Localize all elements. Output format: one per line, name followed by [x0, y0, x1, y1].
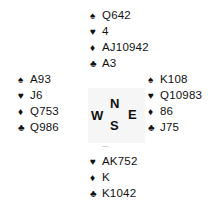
north-hand: ♠Q642 ♥4 ♦AJ10942 ♣A3	[90, 7, 149, 71]
compass-west: W	[91, 108, 103, 123]
spade-icon: ♠	[148, 72, 160, 88]
club-icon: ♣	[90, 186, 102, 202]
south-clubs: ♣K1042	[90, 185, 138, 201]
east-spades: ♠K108	[148, 71, 202, 87]
south-spades: –	[90, 137, 138, 153]
east-hand: ♠K108 ♥Q10983 ♦86 ♣J75	[148, 71, 202, 135]
west-spades: ♠A93	[18, 71, 59, 87]
south-hearts: ♥AK752	[90, 153, 138, 169]
east-hearts: ♥Q10983	[148, 87, 202, 103]
west-hearts: ♥J6	[18, 87, 59, 103]
west-hand: ♠A93 ♥J6 ♦Q753 ♣Q986	[18, 71, 59, 135]
heart-icon: ♥	[90, 154, 102, 170]
south-hand: – ♥AK752 ♦K ♣K1042	[90, 137, 138, 201]
north-hearts: ♥4	[90, 23, 149, 39]
diamond-icon: ♦	[90, 40, 102, 56]
diamond-icon: ♦	[90, 170, 102, 186]
west-clubs: ♣Q986	[18, 119, 59, 135]
heart-icon: ♥	[148, 88, 160, 104]
compass: N W E S	[88, 88, 145, 143]
east-clubs: ♣J75	[148, 119, 202, 135]
spade-icon: ♠	[90, 8, 102, 24]
west-diamonds: ♦Q753	[18, 103, 59, 119]
north-spades: ♠Q642	[90, 7, 149, 23]
north-clubs: ♣A3	[90, 55, 149, 71]
compass-east: E	[128, 107, 137, 122]
club-icon: ♣	[90, 56, 102, 72]
east-diamonds: ♦86	[148, 103, 202, 119]
north-diamonds: ♦AJ10942	[90, 39, 149, 55]
compass-north: N	[110, 96, 119, 111]
compass-south: S	[110, 118, 119, 133]
south-diamonds: ♦K	[90, 169, 138, 185]
club-icon: ♣	[148, 120, 160, 136]
spade-icon: ♠	[18, 72, 30, 88]
heart-icon: ♥	[18, 88, 30, 104]
diamond-icon: ♦	[148, 104, 160, 120]
diamond-icon: ♦	[18, 104, 30, 120]
club-icon: ♣	[18, 120, 30, 136]
heart-icon: ♥	[90, 24, 102, 40]
